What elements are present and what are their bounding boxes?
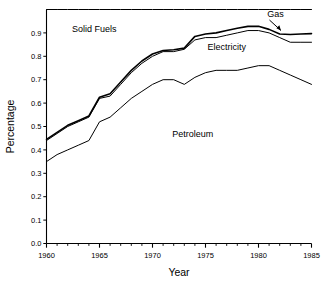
y-tick-label: 0.1 [31, 216, 41, 225]
x-axis-title: Year [168, 266, 190, 278]
series-label-electricity: Electricity [207, 42, 246, 52]
y-tick-label: 0.8 [31, 52, 41, 61]
series-label-gas: Gas [267, 9, 284, 19]
y-tick-label: 0.4 [31, 146, 41, 155]
x-tick-label: 1985 [303, 251, 320, 260]
x-tick-label: 1975 [197, 251, 214, 260]
y-tick-label: 0.7 [31, 75, 41, 84]
gas-leader-arrowhead [276, 25, 281, 30]
y-tick-label: 0.0 [31, 239, 41, 248]
x-tick-label: 1965 [91, 251, 108, 260]
series-line-electricity [47, 31, 312, 141]
y-tick-label: 0.2 [31, 192, 41, 201]
series-line-petroleum [47, 66, 312, 162]
x-tick-label: 1970 [144, 251, 161, 260]
series-label-petroleum: Petroleum [172, 129, 213, 139]
line-chart: 0.00.10.20.30.40.50.60.70.80.91960196519… [0, 0, 324, 289]
x-tick-label: 1980 [250, 251, 267, 260]
y-tick-label: 0.3 [31, 169, 41, 178]
y-axis-title: Percentage [4, 99, 16, 153]
series-line-gas [47, 26, 312, 139]
y-tick-label: 0.9 [31, 29, 41, 38]
series-label-solid-fuels: Solid Fuels [72, 24, 117, 34]
y-tick-label: 0.5 [31, 122, 41, 131]
y-tick-label: 0.6 [31, 99, 41, 108]
figure-container: 0.00.10.20.30.40.50.60.70.80.91960196519… [0, 0, 324, 289]
x-tick-label: 1960 [38, 251, 55, 260]
